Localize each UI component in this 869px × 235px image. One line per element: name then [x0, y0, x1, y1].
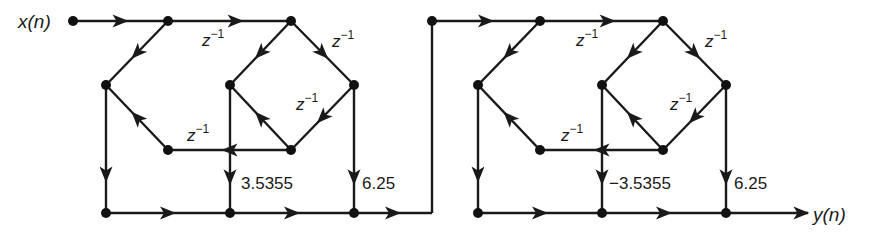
gain-label: 6.25 [362, 174, 395, 193]
node [225, 80, 235, 90]
delay-label: z−1 [575, 27, 599, 50]
node [473, 80, 483, 90]
node [721, 80, 731, 90]
delay-label: z−1 [331, 28, 355, 51]
node [101, 208, 111, 218]
input-label: x(n) [17, 11, 51, 32]
gain-label: 3.5355 [241, 174, 293, 193]
node [225, 208, 235, 218]
node [286, 16, 296, 26]
node [597, 208, 607, 218]
node [535, 145, 545, 155]
delay-label: z−1 [201, 27, 225, 50]
node [163, 145, 173, 155]
node [597, 80, 607, 90]
node [68, 16, 78, 26]
output-label: y(n) [811, 204, 846, 225]
node [286, 145, 296, 155]
delay-label: z−1 [186, 122, 210, 145]
gain-label: 6.25 [734, 174, 767, 193]
node [658, 145, 668, 155]
gain-label: −3.5355 [609, 174, 671, 193]
node [721, 208, 731, 218]
node [101, 80, 111, 90]
node [349, 208, 359, 218]
delay-label: z−1 [704, 28, 728, 51]
delay-label: z−1 [669, 91, 693, 114]
node [535, 16, 545, 26]
delay-label: z−1 [295, 91, 319, 114]
node [163, 16, 173, 26]
delay-label: z−1 [560, 122, 584, 145]
node [658, 16, 668, 26]
node [349, 80, 359, 90]
signal-flow-graph: x(n) y(n) z−1 z−1 z−1 z−1 z−1 z−1 z−1 z−… [0, 0, 869, 235]
node [473, 208, 483, 218]
node [427, 16, 437, 26]
